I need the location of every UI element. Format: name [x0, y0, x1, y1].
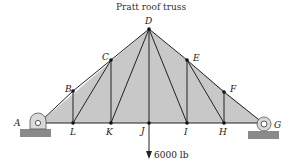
joint-D	[147, 27, 151, 31]
joint-E	[185, 58, 189, 62]
node-label-E: E	[192, 53, 200, 63]
joint-J	[147, 121, 151, 125]
joint-F	[222, 90, 226, 94]
roller-pin-icon	[261, 121, 267, 127]
diagram-title: Pratt roof truss	[116, 2, 186, 12]
ground-right	[248, 131, 279, 139]
node-label-A: A	[13, 118, 21, 128]
node-label-K: K	[105, 127, 114, 137]
node-label-H: H	[218, 127, 227, 137]
joint-H	[222, 121, 226, 125]
joint-C	[109, 58, 113, 62]
node-label-G: G	[274, 120, 281, 130]
load-label: 6000 lb	[154, 150, 189, 160]
ground-left	[20, 129, 51, 137]
joint-B	[71, 89, 75, 93]
load-arrow: 6000 lb	[146, 123, 189, 160]
pin-icon	[35, 120, 40, 125]
arrow-down-icon	[146, 151, 152, 159]
node-label-J: J	[139, 126, 146, 136]
node-label-L: L	[69, 127, 76, 137]
joint-I	[185, 121, 189, 125]
truss-diagram: Pratt roof truss 6000 lb A B C D E F G H…	[0, 0, 295, 167]
node-label-C: C	[102, 52, 109, 62]
joint-K	[109, 121, 113, 125]
node-label-D: D	[144, 16, 152, 26]
joint-L	[71, 121, 75, 125]
node-label-I: I	[183, 127, 188, 137]
node-label-B: B	[64, 84, 72, 94]
node-label-F: F	[229, 84, 237, 94]
